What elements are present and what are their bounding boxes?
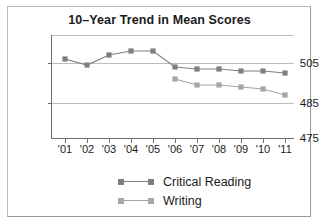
data-point-marker[interactable] — [194, 66, 199, 71]
data-point-marker[interactable] — [106, 52, 111, 57]
data-point-marker[interactable] — [62, 56, 67, 61]
chart-container: 10–Year Trend in Mean Scores 505485475 '… — [0, 0, 319, 224]
data-point-marker[interactable] — [150, 48, 155, 53]
series-line-critical-reading — [65, 51, 285, 73]
data-point-marker[interactable] — [282, 70, 287, 75]
data-point-marker[interactable] — [172, 76, 177, 81]
data-point-marker[interactable] — [172, 64, 177, 69]
legend-label-writing: Writing — [163, 194, 202, 208]
data-point-marker[interactable] — [238, 84, 243, 89]
series-line-writing — [175, 79, 285, 95]
data-point-marker[interactable] — [282, 92, 287, 97]
data-point-marker[interactable] — [84, 62, 89, 67]
chart-legend: Critical Reading Writing — [118, 172, 251, 210]
data-point-marker[interactable] — [194, 82, 199, 87]
legend-swatch-writing — [118, 196, 154, 206]
legend-item-writing[interactable]: Writing — [118, 191, 251, 210]
legend-label-critical-reading: Critical Reading — [163, 175, 251, 189]
data-point-marker[interactable] — [216, 82, 221, 87]
data-point-marker[interactable] — [260, 68, 265, 73]
legend-item-critical-reading[interactable]: Critical Reading — [118, 172, 251, 191]
data-point-marker[interactable] — [260, 86, 265, 91]
data-point-marker[interactable] — [128, 48, 133, 53]
data-point-marker[interactable] — [238, 68, 243, 73]
legend-swatch-critical-reading — [118, 177, 154, 187]
data-point-marker[interactable] — [216, 66, 221, 71]
